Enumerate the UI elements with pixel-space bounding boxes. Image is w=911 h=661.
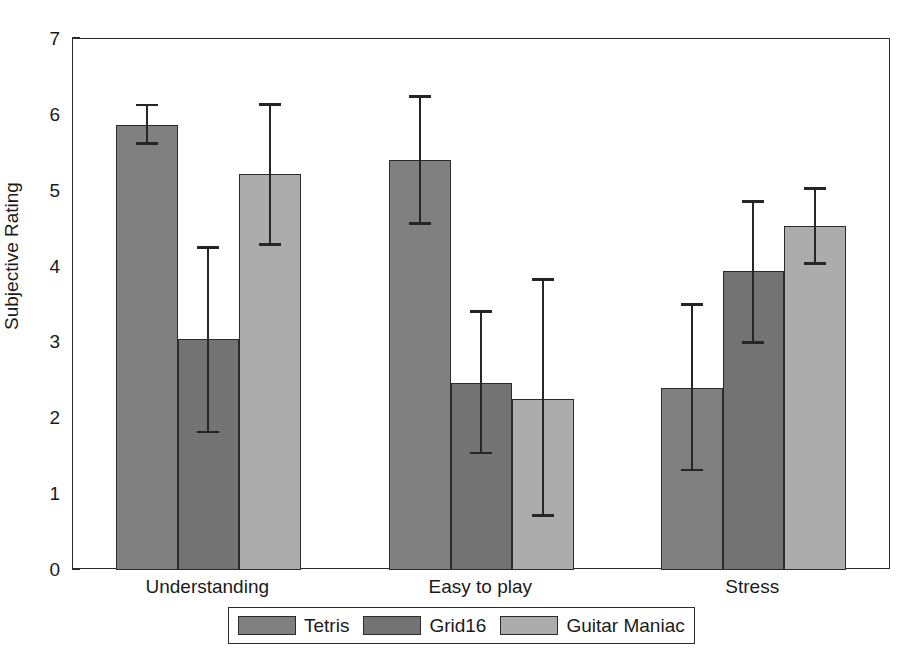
error-bar-cap: [136, 104, 158, 107]
legend-label: Guitar Maniac: [566, 616, 684, 635]
legend-swatch-icon: [238, 616, 296, 635]
y-tick-label: 6: [30, 105, 60, 124]
error-bar-line: [814, 188, 816, 263]
bar: [784, 226, 846, 570]
legend-swatch-icon: [500, 616, 558, 635]
error-bar-line: [207, 248, 209, 432]
bar: [116, 125, 178, 570]
legend-item-tetris[interactable]: Tetris: [238, 616, 349, 635]
error-bar-cap: [804, 187, 826, 190]
error-bar-line: [691, 305, 693, 470]
category-label: Stress: [602, 576, 902, 598]
legend: TetrisGrid16Guitar Maniac: [228, 607, 695, 644]
legend-item-guitar-maniac[interactable]: Guitar Maniac: [500, 616, 684, 635]
error-bar-cap: [259, 103, 281, 106]
y-tick-label: 7: [30, 29, 60, 48]
y-tick-label: 2: [30, 408, 60, 427]
error-bar-line: [146, 105, 148, 144]
error-bar-cap: [532, 278, 554, 281]
error-bar-cap: [470, 310, 492, 313]
plot-area: [72, 38, 890, 569]
error-bar-cap: [681, 303, 703, 306]
y-tick-label: 4: [30, 257, 60, 276]
y-tick-label: 0: [30, 560, 60, 579]
category-label: Understanding: [57, 576, 357, 598]
error-bar-cap: [197, 246, 219, 249]
error-bar-cap: [681, 469, 703, 472]
error-bar-line: [752, 201, 754, 342]
error-bar-cap: [532, 514, 554, 517]
legend-label: Grid16: [429, 616, 486, 635]
legend-item-grid16[interactable]: Grid16: [363, 616, 486, 635]
error-bar-cap: [259, 243, 281, 246]
error-bar-line: [480, 311, 482, 453]
error-bar-cap: [136, 142, 158, 145]
legend-swatch-icon: [363, 616, 421, 635]
error-bar-cap: [742, 200, 764, 203]
error-bar-cap: [804, 262, 826, 265]
y-tick-label: 1: [30, 484, 60, 503]
error-bar-cap: [197, 431, 219, 434]
error-bar-cap: [409, 222, 431, 225]
y-tick-label: 5: [30, 181, 60, 200]
y-tick-label: 3: [30, 332, 60, 351]
error-bar-line: [542, 279, 544, 515]
error-bar-cap: [409, 95, 431, 98]
category-label: Easy to play: [330, 576, 630, 598]
error-bar-line: [269, 104, 271, 244]
error-bar-cap: [470, 452, 492, 455]
error-bar-line: [419, 97, 421, 224]
error-bar-cap: [742, 341, 764, 344]
legend-label: Tetris: [304, 616, 349, 635]
bar-chart-figure: Subjective Rating 76543210 Understanding…: [0, 0, 911, 661]
